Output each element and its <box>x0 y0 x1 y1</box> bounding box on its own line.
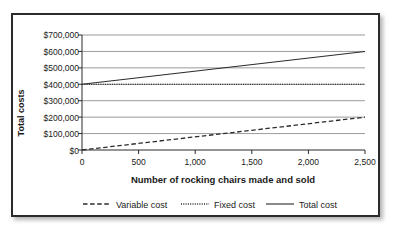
gridlines <box>82 35 365 134</box>
x-tick-label-1000: 1,000 <box>185 157 207 167</box>
y-tick-label-500000: $500,000 <box>44 63 80 73</box>
x-tick-label-1500: 1,500 <box>241 157 263 167</box>
cost-volume-line-chart: Total costs $700,000 $600,000 $500,000 $… <box>13 15 378 215</box>
x-axis-title: Number of rocking chairs made and sold <box>131 174 315 185</box>
legend-item-variable-cost[interactable]: Variable cost <box>83 200 168 210</box>
legend-item-total-cost[interactable]: Total cost <box>266 200 338 210</box>
legend-label-fixed-cost: Fixed cost <box>214 200 256 210</box>
x-tickmarks <box>82 150 365 154</box>
chart-legend: Variable cost Fixed cost Total cost <box>83 200 338 210</box>
x-tick-label-0: 0 <box>80 157 85 167</box>
y-tick-label-600000: $600,000 <box>44 47 80 57</box>
legend-label-variable-cost: Variable cost <box>116 200 168 210</box>
y-tick-label-200000: $200,000 <box>44 113 80 123</box>
y-tick-label-700000: $700,000 <box>44 30 80 40</box>
y-tick-label-100000: $100,000 <box>44 129 80 139</box>
x-tick-label-500: 500 <box>132 157 146 167</box>
y-axis-title: Total costs <box>16 90 26 137</box>
y-tick-label-0: $0 <box>70 146 80 156</box>
y-tick-label-400000: $400,000 <box>44 80 80 90</box>
y-tick-label-300000: $300,000 <box>44 96 80 106</box>
legend-label-total-cost: Total cost <box>299 200 338 210</box>
x-tick-label-2500: 2,500 <box>354 157 376 167</box>
x-tick-label-2000: 2,000 <box>298 157 320 167</box>
plot-area: Total costs $700,000 $600,000 $500,000 $… <box>13 15 378 215</box>
chart-figure: Total costs $700,000 $600,000 $500,000 $… <box>11 13 380 217</box>
legend-item-fixed-cost[interactable]: Fixed cost <box>181 200 256 210</box>
